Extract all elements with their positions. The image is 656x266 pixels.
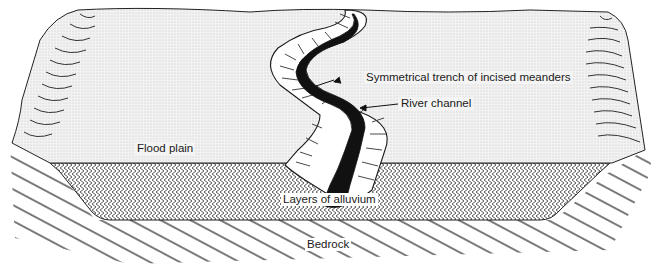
incised-meanders-diagram: [0, 0, 656, 266]
label-river-channel: River channel: [399, 97, 473, 110]
label-alluvium: Layers of alluvium: [281, 193, 378, 206]
label-trench: Symmetrical trench of incised meanders: [364, 71, 573, 84]
label-flood-plain: Flood plain: [135, 142, 195, 155]
label-bedrock: Bedrock: [305, 238, 351, 251]
